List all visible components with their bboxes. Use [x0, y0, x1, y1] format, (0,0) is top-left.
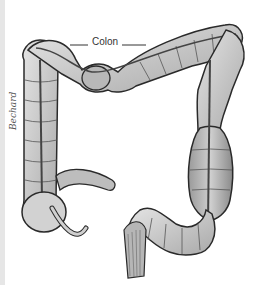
terminal-ileum [56, 169, 115, 190]
rectum [124, 222, 146, 278]
cecum [22, 192, 66, 232]
artist-signature: Bechard [8, 92, 18, 130]
colon-label: Colon [90, 36, 120, 48]
colon-illustration [0, 0, 259, 285]
